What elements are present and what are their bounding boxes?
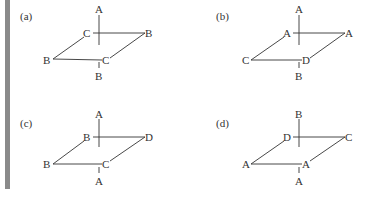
- panel-tag: (d): [216, 117, 229, 130]
- left-edge: [53, 37, 84, 59]
- panel-tag: (b): [216, 10, 229, 23]
- right-edge: [110, 137, 145, 161]
- panel-b: (b) A A A C D B: [216, 3, 353, 82]
- label-back-left: A: [283, 27, 291, 39]
- label-front-right: C: [102, 158, 109, 170]
- label-bottom: A: [295, 175, 303, 187]
- label-front-right: C: [102, 54, 109, 66]
- label-back-right: D: [145, 131, 153, 143]
- label-back-right: A: [345, 27, 353, 39]
- label-back-right: B: [145, 27, 152, 39]
- label-front-left: B: [43, 54, 50, 66]
- panel-a: (a) A C B B C B: [20, 3, 152, 82]
- left-edge: [53, 141, 84, 164]
- label-front-left: C: [242, 54, 249, 66]
- figure-canvas: (a) A C B B C B (b) A A A C D B (c): [0, 0, 365, 197]
- label-top: A: [95, 108, 103, 120]
- label-front-right: A: [302, 158, 310, 170]
- label-front-right: D: [302, 54, 310, 66]
- panel-c: (c) A B D B C A: [20, 108, 153, 187]
- label-front-left: A: [242, 158, 250, 170]
- label-back-right: C: [345, 131, 352, 143]
- panel-d: (d) B D C A A A: [216, 108, 352, 187]
- label-top: B: [295, 108, 302, 120]
- label-bottom: B: [295, 70, 302, 82]
- label-bottom: A: [95, 175, 103, 187]
- right-edge: [310, 33, 345, 58]
- left-edge: [251, 37, 284, 60]
- label-top: A: [295, 3, 303, 15]
- front-edge: [53, 59, 102, 60]
- label-back-left: D: [283, 131, 291, 143]
- label-top: A: [95, 3, 103, 15]
- right-edge: [110, 33, 145, 58]
- panel-tag: (c): [20, 117, 33, 130]
- label-back-left: C: [83, 27, 90, 39]
- panel-tag: (a): [20, 10, 33, 23]
- left-edge: [251, 141, 284, 164]
- label-back-left: B: [83, 131, 90, 143]
- right-edge: [310, 137, 345, 161]
- label-front-left: B: [43, 158, 50, 170]
- label-bottom: B: [95, 70, 102, 82]
